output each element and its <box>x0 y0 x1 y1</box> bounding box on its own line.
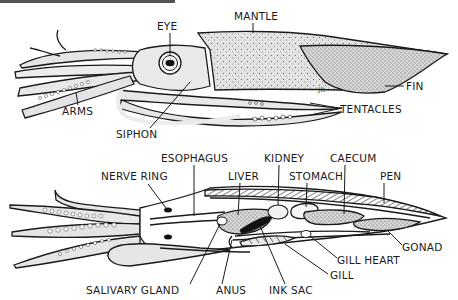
label-anus: ANUS <box>216 284 246 296</box>
int-arm-3 <box>12 223 140 237</box>
label-salivary-gland: SALIVARY GLAND <box>86 284 179 296</box>
leader-gill <box>285 244 328 274</box>
label-gill: GILL <box>330 269 354 281</box>
signature: JR <box>317 86 325 94</box>
nerve-ring-upper <box>164 208 172 213</box>
label-gill-heart: GILL HEART <box>337 254 400 266</box>
label-fin: FIN <box>406 80 424 92</box>
label-tentacles: TENTACLES <box>339 103 402 115</box>
eye-pupil <box>166 60 175 66</box>
label-mantle: MANTLE <box>234 10 278 22</box>
internal-view: ESOPHAGUS NERVE RING LIVER KIDNEY STOMAC… <box>10 152 446 296</box>
salivary-gland <box>217 217 227 225</box>
label-caecum: CAECUM <box>330 152 376 164</box>
external-view: JR EYE MANTLE FIN TENTACLES ARMS SIPHON <box>15 10 447 140</box>
label-nerve-ring: NERVE RING <box>101 170 168 182</box>
leader-gonad <box>388 231 402 245</box>
tentacle-upper <box>118 90 342 110</box>
squid-anatomy-diagram: JR EYE MANTLE FIN TENTACLES ARMS SIPHON <box>0 0 458 300</box>
label-siphon: SIPHON <box>116 128 157 140</box>
label-stomach: STOMACH <box>289 170 343 182</box>
label-eye: EYE <box>157 20 177 32</box>
label-ink-sac: INK SAC <box>269 284 313 296</box>
label-gonad: GONAD <box>402 241 443 253</box>
gonad <box>354 219 420 231</box>
label-esophagus: ESOPHAGUS <box>161 152 228 164</box>
leader-gill-heart <box>310 236 337 258</box>
top-border <box>0 0 175 3</box>
label-pen: PEN <box>380 170 401 182</box>
label-kidney: KIDNEY <box>264 152 305 164</box>
gill-heart <box>301 231 311 238</box>
label-arms: ARMS <box>62 105 93 117</box>
nerve-ring-lower <box>164 235 172 240</box>
label-liver: LIVER <box>228 170 259 182</box>
